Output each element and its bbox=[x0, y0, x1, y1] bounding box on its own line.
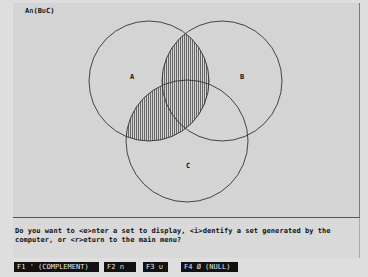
prompt-line-2: computer, or <r>eturn to the main menu? bbox=[15, 236, 181, 244]
label-b: B bbox=[240, 73, 244, 81]
label-c: C bbox=[186, 162, 190, 170]
prompt-line-1: Do you want to <e>nter a set to display,… bbox=[15, 227, 331, 235]
f2-intersection-key[interactable]: F2 ∩ bbox=[104, 262, 136, 272]
shaded-region bbox=[126, 21, 282, 202]
prompt-area: Do you want to <e>nter a set to display,… bbox=[13, 218, 360, 258]
label-a: A bbox=[130, 73, 135, 81]
function-key-bar: F1 ' (COMPLEMENT) F2 ∩ F3 ∪ F4 Ø (NULL) bbox=[0, 262, 368, 274]
program-screen: A∩(B∪C) A B C Do you want to <e>nter a s… bbox=[0, 0, 368, 277]
f4-null-key[interactable]: F4 Ø (NULL) bbox=[181, 262, 238, 272]
f3-union-key[interactable]: F3 ∪ bbox=[143, 262, 168, 272]
f1-complement-key[interactable]: F1 ' (COMPLEMENT) bbox=[14, 262, 99, 272]
